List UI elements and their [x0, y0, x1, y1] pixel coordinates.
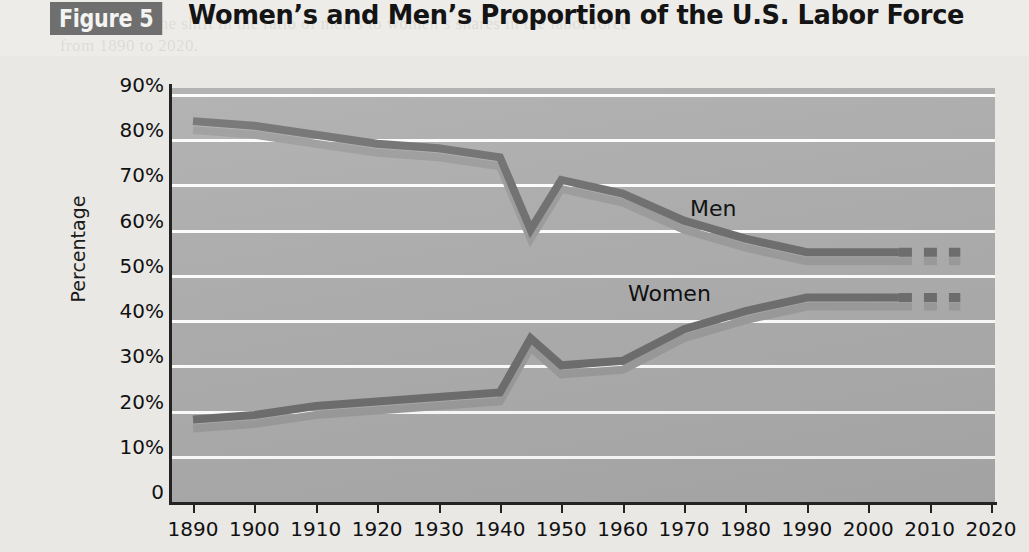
x-tick [623, 502, 625, 513]
y-tick-label: 0 [151, 480, 164, 504]
chart-figure: Percentage 90%80%70%60%50%40%30%20%10%0 … [0, 56, 1029, 552]
x-tick-label: 1980 [714, 517, 776, 541]
women-label: Women [628, 281, 711, 306]
x-tick-label: 1890 [162, 517, 224, 541]
x-tick-label: 2010 [899, 517, 961, 541]
figure-number-badge: Figure 5 [50, 2, 162, 35]
x-tick [561, 502, 563, 513]
x-tick-label: 1900 [223, 517, 285, 541]
x-tick [193, 502, 195, 513]
men-label: Men [690, 196, 736, 221]
x-tick [745, 502, 747, 513]
x-tick-label: 1910 [285, 517, 347, 541]
y-tick-label: 60% [120, 209, 164, 233]
x-tick-label: 1950 [530, 517, 592, 541]
figure-title: Women’s and Men’s Proportion of the U.S.… [188, 0, 964, 30]
x-tick-label: 2000 [837, 517, 899, 541]
x-tick [930, 502, 932, 513]
y-tick-label: 50% [120, 254, 164, 278]
x-tick [377, 502, 379, 513]
x-tick [684, 502, 686, 513]
y-axis-line [169, 84, 172, 504]
x-tick [316, 502, 318, 513]
x-tick [868, 502, 870, 513]
x-axis-line [169, 502, 997, 505]
x-axis-title: Year [0, 548, 1029, 552]
x-tick [254, 502, 256, 513]
figure-header: Figure 5 Women’s and Men’s Proportion of… [0, 0, 1029, 56]
x-tick [807, 502, 809, 513]
y-tick-label: 90% [120, 73, 164, 97]
y-tick-label: 80% [120, 118, 164, 142]
x-tick-label: 1970 [653, 517, 715, 541]
y-axis-title: Percentage [67, 169, 89, 329]
y-tick-label: 20% [120, 390, 164, 414]
series-lines [172, 88, 995, 502]
y-tick-label: 40% [120, 299, 164, 323]
plot-area: MenWomen [172, 88, 995, 502]
x-tick-label: 1920 [346, 517, 408, 541]
x-tick-label: 1940 [469, 517, 531, 541]
figure-page: graphs show the shift in the ratio of me… [0, 0, 1029, 552]
x-tick [439, 502, 441, 513]
y-tick-label: 30% [120, 344, 164, 368]
series-shadow-men [193, 130, 899, 261]
x-tick-label: 1990 [776, 517, 838, 541]
x-tick [991, 502, 993, 513]
x-tick-label: 1960 [592, 517, 654, 541]
y-tick-label: 10% [120, 435, 164, 459]
x-tick [500, 502, 502, 513]
x-tick-label: 1930 [408, 517, 470, 541]
y-tick-label: 70% [120, 163, 164, 187]
x-tick-label: 2020 [960, 517, 1022, 541]
